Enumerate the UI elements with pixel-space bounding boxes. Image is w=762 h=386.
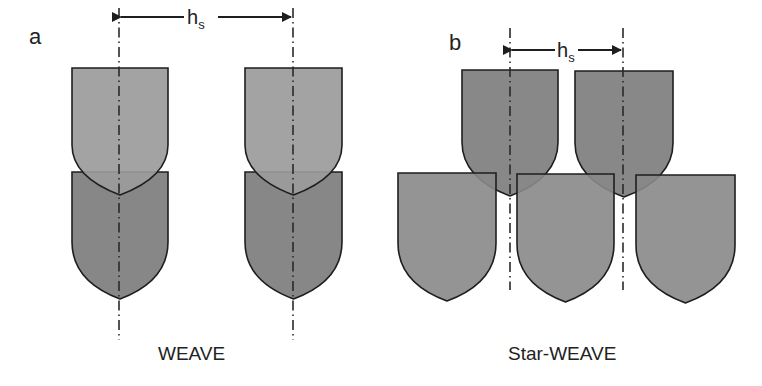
caption-star-weave: Star-WEAVE (508, 343, 616, 364)
spacing-label-a: hs (187, 6, 205, 32)
shield-shape (636, 175, 735, 303)
lower-shields-b (398, 173, 735, 303)
weave-diagram: a hs WEAVE b hs Star-WEAVE (0, 0, 762, 386)
spacing-dimension-b: hs (512, 39, 621, 65)
panel-a: a hs WEAVE (29, 6, 342, 364)
caption-weave: WEAVE (158, 343, 225, 364)
shield-shape (517, 174, 614, 302)
panel-b: b hs Star-WEAVE (398, 28, 735, 364)
shield-shape (72, 68, 168, 195)
shield-shape (398, 173, 496, 301)
spacing-dimension-a: hs (121, 6, 291, 32)
panel-label-a: a (29, 24, 42, 49)
upper-shields-a (72, 68, 342, 195)
panel-label-b: b (449, 30, 461, 55)
spacing-label-b: hs (557, 39, 575, 65)
